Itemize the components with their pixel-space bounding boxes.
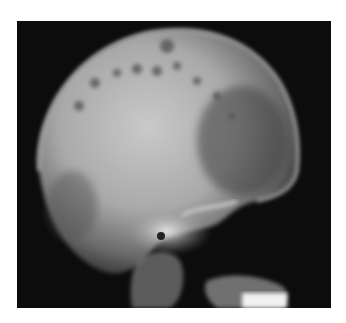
- skull-radiograph: [17, 21, 331, 308]
- skull-xray-image: [17, 21, 331, 308]
